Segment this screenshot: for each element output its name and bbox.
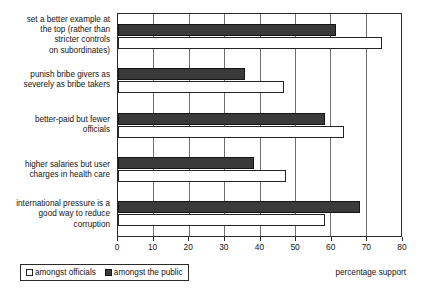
category-label-text-1: punish bribe givers asseverely as bribe … bbox=[24, 70, 110, 90]
bar-rows bbox=[118, 14, 401, 236]
x-axis-title: percentage support bbox=[335, 268, 406, 277]
x-tick bbox=[366, 237, 367, 241]
category-label-text-0: set a better example atthe top (rather t… bbox=[27, 15, 110, 56]
category-axis-labels: set a better example atthe top (rather t… bbox=[4, 13, 114, 237]
x-tick-label: 70 bbox=[362, 242, 371, 252]
x-tick bbox=[260, 237, 261, 241]
bar-public[interactable] bbox=[118, 24, 336, 36]
x-tick-label: 60 bbox=[326, 242, 335, 252]
legend-entry-officials: amongst officials bbox=[26, 268, 96, 277]
x-axis-tick-labels: 01020304050607080 bbox=[117, 242, 402, 254]
x-tick-label: 80 bbox=[397, 242, 406, 252]
bar-chart: set a better example atthe top (rather t… bbox=[0, 0, 422, 301]
x-tick bbox=[153, 237, 154, 241]
bar-officials[interactable] bbox=[118, 214, 325, 226]
legend: amongst officials amongst the public bbox=[20, 264, 189, 281]
category-label: punish bribe givers asseverely as bribe … bbox=[4, 58, 114, 103]
bar-public[interactable] bbox=[118, 157, 254, 169]
category-label: better-paid but fewerofficials bbox=[4, 103, 114, 148]
bar-officials[interactable] bbox=[118, 37, 382, 49]
bar-row bbox=[118, 192, 401, 236]
x-tick bbox=[224, 237, 225, 241]
bar-officials[interactable] bbox=[118, 126, 344, 138]
x-tick-label: 20 bbox=[184, 242, 193, 252]
category-label: international pressure is agood way to r… bbox=[4, 192, 114, 237]
x-tick-label: 0 bbox=[115, 242, 120, 252]
bar-row bbox=[118, 103, 401, 147]
plot-area bbox=[117, 13, 402, 237]
x-tick-label: 10 bbox=[148, 242, 157, 252]
legend-label-officials: amongst officials bbox=[35, 268, 96, 277]
bar-public[interactable] bbox=[118, 201, 360, 213]
bar-officials[interactable] bbox=[118, 170, 286, 182]
category-label-text-4: international pressure is agood way to r… bbox=[16, 199, 110, 230]
category-label-text-3: higher salaries but usercharges in healt… bbox=[25, 160, 110, 180]
x-tick bbox=[188, 237, 189, 241]
category-label-text-2: better-paid but fewerofficials bbox=[35, 115, 110, 135]
black-square-icon bbox=[105, 269, 112, 276]
legend-label-public: amongst the public bbox=[114, 268, 183, 277]
category-label: set a better example atthe top (rather t… bbox=[4, 13, 114, 58]
white-square-icon bbox=[26, 269, 33, 276]
bar-officials[interactable] bbox=[118, 81, 284, 93]
x-tick-label: 30 bbox=[219, 242, 228, 252]
bar-public[interactable] bbox=[118, 113, 325, 125]
bar-row bbox=[118, 14, 401, 58]
category-label: higher salaries but usercharges in healt… bbox=[4, 147, 114, 192]
x-tick-label: 50 bbox=[290, 242, 299, 252]
x-tick-label: 40 bbox=[255, 242, 264, 252]
x-tick bbox=[295, 237, 296, 241]
x-tick bbox=[402, 237, 403, 241]
x-tick bbox=[331, 237, 332, 241]
bar-row bbox=[118, 58, 401, 102]
legend-entry-public: amongst the public bbox=[105, 268, 183, 277]
x-tick bbox=[117, 237, 118, 241]
bar-row bbox=[118, 147, 401, 191]
bar-public[interactable] bbox=[118, 68, 245, 80]
